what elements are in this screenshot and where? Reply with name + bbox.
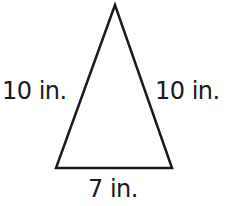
left-side-label: 10 in. <box>2 79 67 103</box>
base-label: 7 in. <box>88 177 138 201</box>
right-side-label: 10 in. <box>155 79 220 103</box>
